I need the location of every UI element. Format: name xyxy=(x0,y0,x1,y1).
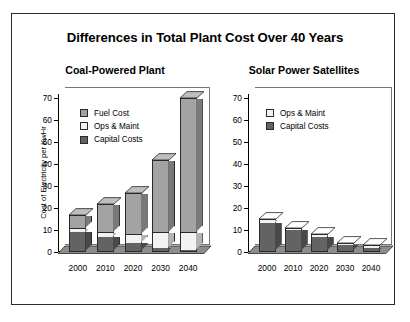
legend-solar: Ops & MaintCapital Costs xyxy=(266,108,329,135)
y-tick-label: 10 xyxy=(233,225,242,235)
panel-title-coal: Coal-Powered Plant xyxy=(22,64,208,76)
y-tick-label: 50 xyxy=(233,137,242,147)
bar-top-face xyxy=(152,153,176,160)
bar-segment-ops-maint xyxy=(180,232,197,250)
bar-top-face xyxy=(311,227,335,234)
bar-group: 2040 xyxy=(363,94,380,252)
legend-item-fuel-cost: Fuel Cost xyxy=(80,108,143,118)
bar-segment-side xyxy=(85,232,92,251)
bar-segment-ops-maint xyxy=(152,232,169,247)
bar-segment-side xyxy=(168,248,175,251)
x-axis-label-2040: 2040 xyxy=(172,263,205,273)
bar-segment-capital-costs xyxy=(97,237,114,252)
bar-segment-fuel-cost xyxy=(97,204,114,233)
y-tick-label: 30 xyxy=(233,181,242,191)
panel-coal-powered-plant: Coal-Powered Plant Cost of Electricity p… xyxy=(22,64,218,292)
bar-segment-side xyxy=(113,237,120,251)
legend-item-ops-maint: Ops & Maint xyxy=(80,121,143,131)
bar-segment-side xyxy=(275,223,282,251)
bar-segment-ops-maint xyxy=(97,232,114,236)
y-tick-label: 10 xyxy=(43,225,52,235)
legend-label: Fuel Cost xyxy=(94,109,129,118)
bar-group: 2040 xyxy=(180,94,197,252)
legend-swatch-icon xyxy=(266,109,274,117)
bar-segment-side xyxy=(196,99,203,232)
y-tick-label: 40 xyxy=(43,159,52,169)
bar-segment-capital-costs xyxy=(180,250,197,252)
panel-solar-power-satellites: Solar Power Satellites 010203040506070 2… xyxy=(214,64,400,292)
bar-top-face xyxy=(337,236,361,243)
bar-segment-capital-costs xyxy=(259,223,276,252)
bar-segment-side xyxy=(196,233,203,250)
bar-top-face xyxy=(97,197,121,204)
bar-segment-fuel-cost xyxy=(69,215,86,228)
bar-segment-side xyxy=(327,237,334,251)
legend-item-ops-maint: Ops & Maint xyxy=(266,108,329,118)
chart-page: Differences in Total Plant Cost Over 40 … xyxy=(0,0,410,322)
y-tick-label: 50 xyxy=(43,137,52,147)
bar-segment-ops-maint xyxy=(125,234,142,243)
bar-segment-side xyxy=(168,233,175,247)
bar-segment-side xyxy=(141,194,148,235)
y-tick-label: 40 xyxy=(233,159,242,169)
bar-segment-side xyxy=(141,243,148,251)
bar-segment-side xyxy=(379,248,386,251)
bar-segment-capital-costs xyxy=(337,245,354,252)
bar-top-face xyxy=(259,212,283,219)
figure-title: Differences in Total Plant Cost Over 40 … xyxy=(0,30,410,45)
legend-item-capital-costs: Capital Costs xyxy=(80,135,143,145)
y-tick-label: 20 xyxy=(233,203,242,213)
bar-top-face xyxy=(285,221,309,228)
bar-group: 2030 xyxy=(337,94,354,252)
legend-label: Capital Costs xyxy=(94,135,143,144)
bar-segment-capital-costs xyxy=(363,248,380,252)
legend-label: Ops & Maint xyxy=(94,122,139,131)
legend-label: Ops & Maint xyxy=(280,109,325,118)
bar-segment-capital-costs xyxy=(311,237,328,252)
bar-segment-fuel-cost xyxy=(180,98,197,232)
panel-title-solar: Solar Power Satellites xyxy=(214,64,394,76)
bar-segment-side xyxy=(301,230,308,251)
bar-segment-side xyxy=(196,250,203,251)
bar-segment-fuel-cost xyxy=(125,193,142,235)
bar-segment-ops-maint xyxy=(69,228,86,232)
bar-segment-side xyxy=(85,216,92,228)
y-tick-label: 70 xyxy=(43,93,52,103)
bar-segment-side xyxy=(168,161,175,232)
bar-segment-fuel-cost xyxy=(152,160,169,232)
y-tick-label: 20 xyxy=(43,203,52,213)
bar-group: 2030 xyxy=(152,94,169,252)
y-tick-label: 70 xyxy=(233,93,242,103)
legend-label: Capital Costs xyxy=(280,122,329,131)
bar-segment-capital-costs xyxy=(285,230,302,252)
bar-top-face xyxy=(363,238,387,245)
y-tick-label: 0 xyxy=(47,247,52,257)
bar-top-face xyxy=(69,208,93,215)
y-tick-label: 30 xyxy=(43,181,52,191)
legend-swatch-icon xyxy=(266,122,274,130)
bar-top-face xyxy=(125,186,149,193)
y-axis-title: Cost of Electricity per KwHr xyxy=(39,108,48,238)
legend-item-capital-costs: Capital Costs xyxy=(266,121,329,131)
y-tick-label: 0 xyxy=(237,247,242,257)
bar-segment-capital-costs xyxy=(125,243,142,252)
bar-segment-side xyxy=(141,235,148,243)
y-tick-label: 60 xyxy=(233,115,242,125)
bar-segment-side xyxy=(113,205,120,233)
bar-segment-capital-costs xyxy=(69,232,86,252)
bar-segment-capital-costs xyxy=(152,248,169,252)
bar-top-face xyxy=(180,91,204,98)
legend-coal: Fuel CostOps & MaintCapital Costs xyxy=(80,108,143,148)
legend-swatch-icon xyxy=(80,136,88,144)
y-tick-label: 60 xyxy=(43,115,52,125)
legend-swatch-icon xyxy=(80,122,88,130)
bar-segment-side xyxy=(353,245,360,251)
legend-swatch-icon xyxy=(80,109,88,117)
x-axis-label-2040: 2040 xyxy=(355,263,388,273)
